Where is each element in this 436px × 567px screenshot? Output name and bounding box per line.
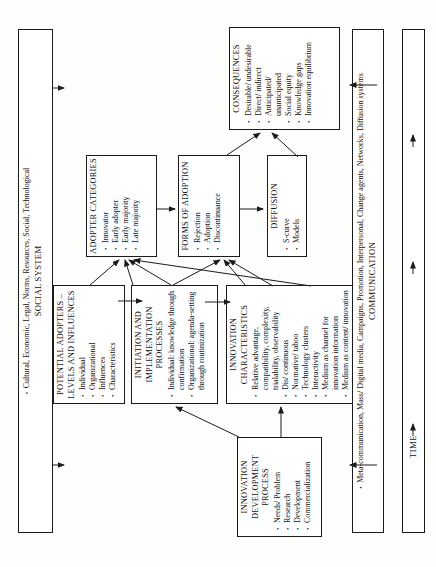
diffusion-model-diagram: • Cultural, Economic, Legal, Norms, Reso… — [0, 0, 436, 567]
list-item: •Early adopter — [111, 158, 121, 250]
box-items: •Needs/ Problem•Research•Development•Com… — [272, 438, 315, 536]
arrow-characteristics-to-adopter-categories — [134, 260, 311, 286]
potential-adopters-box: POTENTIAL ADOPTERS – LEVELS AND INFLUENC… — [53, 285, 125, 404]
arrow-characteristics-to-forms-of-adoption-2 — [229, 260, 273, 286]
time-bar: TIME — [402, 29, 425, 533]
bullet-dot: • — [303, 523, 313, 530]
box-items: •Individual: knowledge through confirmat… — [166, 286, 209, 403]
social-system-bar: • Cultural, Economic, Legal, Norms, Reso… — [18, 29, 53, 533]
list-item: •Commercialization — [303, 440, 313, 530]
list-item-text: Early adopter — [111, 200, 121, 243]
box-title: DIFFUSION — [268, 156, 281, 256]
list-item-text: Organizational — [88, 343, 98, 390]
list-item-text: Rejection — [193, 212, 203, 243]
bullet-dot: • — [131, 243, 141, 250]
bullet-dot: • — [23, 388, 31, 394]
list-item: •Development — [293, 440, 303, 530]
list-item: •Organizational — [88, 288, 98, 397]
social-system-title: SOCIAL SYSTEM — [33, 30, 44, 532]
bullet-dot: • — [251, 390, 281, 397]
box-items: •Rejection•Adoption•Discontinuance — [192, 156, 225, 256]
arrow-forms-to-consequences — [227, 133, 260, 155]
innovation-development-process-box: INNOVATION DEVELOPMENT PROCESS •Needs/ P… — [237, 437, 322, 537]
list-item: •Social equity — [284, 40, 294, 123]
bullet-dot: • — [78, 390, 88, 397]
time-label: TIME — [408, 435, 418, 458]
list-item: •Innovation equilibrium — [304, 40, 314, 123]
bullet-dot: • — [167, 390, 187, 397]
box-items: •S-curve•Models — [281, 156, 304, 256]
list-item-text: S-curve — [282, 218, 292, 243]
box-items: •Desirable/ undesirable•Direct/ indirect… — [243, 28, 316, 129]
innovation-characteristics-box: INNOVATION CHARACTERISTICS •Relative adv… — [226, 285, 366, 404]
box-items: •Innovator•Early adopter•Early majority•… — [100, 156, 143, 256]
consequences-box: CONSEQUENCES •Desirable/ undesirable•Dir… — [229, 27, 340, 130]
list-item: •Interactivity — [311, 288, 321, 397]
list-item: •Direct/ indirect — [254, 40, 264, 123]
diffusion-box: DIFFUSION •S-curve•Models — [267, 155, 307, 257]
list-item-text: Innovator — [101, 212, 111, 243]
box-items: •Individual•Organizational•Influences•Ch… — [77, 286, 120, 403]
list-item-text: Adoption — [203, 213, 213, 243]
communication-bar: • Meta-communication, Mass/ Digital medi… — [352, 29, 384, 533]
list-item: •Research — [283, 440, 293, 530]
bullet-dot: • — [187, 390, 207, 397]
list-item: •Models — [292, 158, 302, 250]
bullet-dot: • — [244, 116, 254, 123]
communication-items: • Meta-communication, Mass/ Digital medi… — [355, 30, 367, 532]
bullet-dot: • — [294, 116, 304, 123]
list-item-text: Early majority — [121, 197, 131, 243]
bullet-dot: • — [111, 243, 121, 250]
box-title: INNOVATION DEVELOPMENT PROCESS — [238, 438, 272, 536]
list-item: •Desirable/ undesirable — [244, 40, 254, 123]
bullet-dot: • — [357, 483, 365, 489]
arrow-initiation-to-adopter-categories — [129, 260, 171, 285]
list-item: •Influences — [98, 288, 108, 397]
list-item-text: Models — [292, 219, 302, 243]
bullet-dot: • — [301, 390, 311, 397]
bullet-dot: • — [282, 243, 292, 250]
initiation-implementation-box: INITIATION AND IMPLEMENTATION PROCESSES … — [131, 285, 218, 404]
list-item-text: Individual: knowledge through confirmati… — [167, 288, 187, 390]
list-item-text: Organizational: agenda-setting through r… — [187, 288, 207, 390]
bullet-dot: • — [108, 390, 118, 397]
list-item: •Normative/ taboo — [291, 288, 301, 397]
list-item: •Innovator — [101, 158, 111, 250]
communication-items-text: Meta-communication, Mass/ Digital media,… — [356, 73, 365, 483]
list-item: •Needs/ Problem — [273, 440, 283, 530]
box-title: CONSEQUENCES — [230, 28, 243, 129]
bullet-dot: • — [291, 390, 301, 397]
list-item: •Late majority — [131, 158, 141, 250]
bullet-dot: • — [88, 390, 98, 397]
bullet-dot: • — [203, 243, 213, 250]
list-item-text: Direct/ indirect — [254, 67, 264, 116]
bullet-dot: • — [273, 523, 283, 530]
list-item-text: Knowledge gaps — [294, 62, 304, 116]
list-item-text: Relative advantage, compatibility, compl… — [251, 288, 281, 390]
bullet-dot: • — [321, 390, 341, 397]
list-item: •Organizational: agenda-setting through … — [187, 288, 207, 397]
bullet-dot: • — [281, 390, 291, 397]
list-item: •Characteristics — [108, 288, 118, 397]
bullet-dot: • — [284, 116, 294, 123]
list-item: •Knowledge gaps — [294, 40, 304, 123]
list-item: •Individual: knowledge through confirmat… — [167, 288, 187, 397]
box-title: INNOVATION CHARACTERISTICS — [227, 286, 250, 403]
bullet-dot: • — [292, 243, 302, 250]
list-item-text: Development — [293, 480, 303, 523]
communication-title: COMMUNICATION — [367, 30, 378, 532]
bullet-dot: • — [311, 390, 321, 397]
bullet-dot: • — [98, 390, 108, 397]
box-items: •Relative advantage, compatibility, comp… — [250, 286, 363, 403]
list-item-text: Dis/ continuous — [281, 340, 291, 390]
bullet-dot: • — [254, 116, 264, 123]
list-item: •Rejection — [193, 158, 203, 250]
arrow-initiation-corner-to-adopter-categories — [125, 260, 133, 285]
list-item-text: Technology clusters — [301, 326, 311, 390]
list-item-text: Medium as channel for innovation informa… — [321, 288, 341, 390]
list-item: •Anticipated/ unanticipated — [264, 40, 284, 123]
list-item-text: Innovation equilibrium — [304, 42, 314, 116]
box-title: POTENTIAL ADOPTERS – LEVELS AND INFLUENC… — [54, 286, 77, 403]
arrow-potential-adopters-to-adopter-categories — [90, 260, 119, 285]
box-title: ADOPTER CATEGORIES — [87, 156, 100, 256]
